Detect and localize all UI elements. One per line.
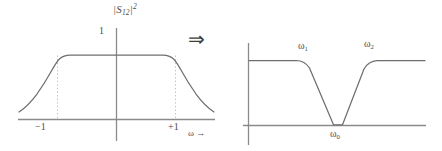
s-param-subscript: 12	[122, 8, 130, 17]
left-plot-y-axis-title: |S12|2	[113, 3, 137, 16]
right-plot-omega0-label: ω0	[330, 129, 340, 140]
omega2-symbol: ω	[364, 38, 371, 49]
right-plot-omega1-label: ω1	[298, 41, 308, 52]
s-param-exponent: 2	[133, 2, 137, 11]
figure-canvas	[0, 0, 442, 151]
right-plot-response-curve	[249, 61, 425, 125]
left-plot-x-tick-minus-one: −1	[35, 122, 46, 132]
omega1-symbol: ω	[298, 40, 305, 51]
left-plot-x-axis-label: ω →	[188, 129, 205, 138]
left-plot-group	[18, 28, 215, 141]
filter-response-figure: |S12|2 1 −1 +1 ω → ⇒ ω1 ω2 ω0	[0, 0, 442, 151]
omega1-subscript: 1	[305, 45, 308, 52]
omega0-symbol: ω	[330, 128, 337, 139]
double-right-arrow-icon: ⇒	[188, 29, 205, 49]
omega0-subscript: 0	[337, 133, 340, 140]
left-plot-y-tick-label: 1	[99, 26, 104, 36]
omega2-subscript: 2	[371, 43, 374, 50]
right-plot-omega2-label: ω2	[364, 39, 374, 50]
left-plot-x-tick-plus-one: +1	[168, 122, 179, 132]
